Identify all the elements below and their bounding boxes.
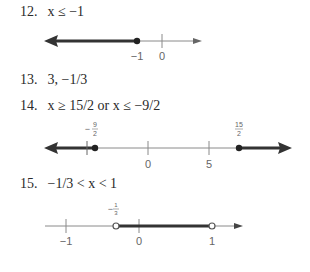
tick-label: 5 (206, 158, 212, 170)
problem-answer: x ≥ 15/2 or x ≤ −9/2 (48, 98, 161, 113)
problem-15: 15. −1/3 < x < 1 (20, 176, 117, 192)
point-label-numerator: 1 (114, 202, 118, 208)
point-label-numerator: 9 (93, 121, 97, 128)
point-label-sign: − (108, 204, 113, 214)
point-label-denominator: 2 (237, 130, 241, 137)
point-label-denominator: 3 (114, 210, 118, 216)
problem-number: 12. (20, 4, 44, 20)
problem-number: 14. (20, 98, 44, 114)
point-label-denominator: 2 (93, 130, 97, 137)
problem-answer: −1/3 < x < 1 (48, 176, 118, 191)
number-line-12: −1 0 (0, 28, 310, 64)
problem-number: 13. (20, 72, 44, 88)
problem-answer: x ≤ −1 (48, 4, 85, 19)
number-line-14: − 9 2 15 2 0 5 (0, 118, 310, 170)
problem-12: 12. x ≤ −1 (20, 4, 84, 20)
tick-label: 0 (145, 158, 151, 170)
tick-label: 0 (136, 235, 142, 247)
point-label-numerator: 15 (235, 121, 243, 128)
tick-label: −1 (131, 50, 144, 62)
tick-label: 0 (159, 50, 165, 62)
problem-13: 13. 3, −1/3 (20, 72, 87, 88)
tick-label: −1 (60, 235, 73, 247)
tick-label: 1 (209, 235, 215, 247)
problem-answer: 3, −1/3 (48, 72, 88, 87)
number-line-15: − 1 3 −1 0 1 (0, 200, 310, 248)
problem-14: 14. x ≥ 15/2 or x ≤ −9/2 (20, 98, 160, 114)
problem-number: 15. (20, 176, 44, 192)
point-label-sign: − (85, 124, 90, 134)
